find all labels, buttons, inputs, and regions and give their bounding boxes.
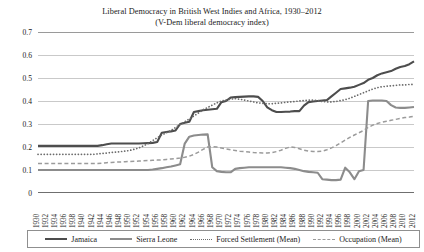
x-tick-label: 1952 — [133, 214, 141, 228]
x-tick-label: 1950 — [124, 214, 132, 228]
y-axis-labels: 00.10.20.30.40.50.60.7 — [0, 32, 34, 193]
x-axis-labels: 1930193219341936193819401942194419461948… — [38, 194, 414, 228]
x-tick-label: 1998 — [344, 214, 352, 228]
legend-swatch-forced-settlement-icon — [190, 239, 212, 240]
x-tick-label: 2000 — [354, 214, 362, 228]
x-tick-label: 1958 — [161, 214, 169, 228]
legend-item-jamaica: Jamaica — [45, 235, 97, 244]
legend-swatch-jamaica-icon — [45, 238, 67, 240]
x-tick-label: 1940 — [78, 214, 86, 228]
chart-subtitle: (V-Dem liberal democracy index) — [0, 17, 424, 28]
x-tick-label: 1930 — [33, 214, 41, 228]
chart-legend: Jamaica Sierra Leone Forced Settlement (… — [27, 230, 420, 248]
x-tick-label: 1986 — [289, 214, 297, 228]
x-tick-label: 1974 — [234, 214, 242, 228]
series-line-jamaica — [38, 61, 414, 145]
x-tick-label: 1938 — [69, 214, 77, 228]
x-tick-label: 1942 — [88, 214, 96, 228]
x-axis-line — [38, 192, 414, 193]
x-tick-label: 1944 — [97, 214, 105, 228]
x-tick-label: 1932 — [42, 214, 50, 228]
x-tick-label: 2008 — [390, 214, 398, 228]
series-line-occupation-mean — [38, 116, 414, 163]
x-tick-label: 2002 — [363, 214, 371, 228]
x-tick-label: 1978 — [253, 214, 261, 228]
series-line-forced-settlement-mean — [38, 84, 414, 154]
x-tick-label: 1964 — [189, 214, 197, 228]
y-tick-label: 0.7 — [6, 28, 32, 37]
x-tick-label: 1980 — [262, 214, 270, 228]
y-tick-label: 0.4 — [6, 97, 32, 106]
chart-figure: Liberal Democracy in British West Indies… — [0, 0, 424, 252]
x-tick-label: 1996 — [335, 214, 343, 228]
x-tick-label: 1982 — [271, 214, 279, 228]
y-tick-label: 0 — [6, 189, 32, 198]
x-tick-label: 1972 — [225, 214, 233, 228]
x-tick-label: 1976 — [244, 214, 252, 228]
x-tick-label: 1960 — [170, 214, 178, 228]
y-tick-label: 0.2 — [6, 143, 32, 152]
x-tick-label: 1994 — [326, 214, 334, 228]
x-tick-label: 1966 — [198, 214, 206, 228]
x-tick-label: 2004 — [372, 214, 380, 228]
legend-item-sierra-leone: Sierra Leone — [110, 235, 177, 244]
y-tick-label: 0.1 — [6, 166, 32, 175]
x-tick-label: 1988 — [299, 214, 307, 228]
x-tick-label: 1962 — [179, 214, 187, 228]
y-tick-label: 0.3 — [6, 120, 32, 129]
x-tick-label: 1956 — [152, 214, 160, 228]
legend-item-forced-settlement: Forced Settlement (Mean) — [190, 235, 300, 244]
x-tick-label: 1936 — [60, 214, 68, 228]
legend-swatch-occupation-icon — [313, 239, 335, 240]
y-tick-label: 0.6 — [6, 51, 32, 60]
x-tick-label: 1990 — [308, 214, 316, 228]
plot-area — [38, 32, 414, 193]
chart-lines — [38, 32, 414, 193]
x-tick-label: 1946 — [106, 214, 114, 228]
x-tick-label: 1968 — [207, 214, 215, 228]
x-tick-label: 1948 — [115, 214, 123, 228]
legend-label-occupation: Occupation (Mean) — [339, 235, 401, 244]
x-tick-label: 2012 — [409, 214, 417, 228]
legend-swatch-sierra-leone-icon — [110, 238, 132, 240]
page-title: Liberal Democracy in British West Indies… — [0, 6, 424, 17]
x-tick-label: 1984 — [280, 214, 288, 228]
x-tick-label: 1970 — [216, 214, 224, 228]
x-tick-label: 2010 — [399, 214, 407, 228]
x-tick-label: 2006 — [381, 214, 389, 228]
legend-label-sierra-leone: Sierra Leone — [136, 235, 177, 244]
legend-label-forced-settlement: Forced Settlement (Mean) — [216, 235, 300, 244]
legend-label-jamaica: Jamaica — [71, 235, 97, 244]
x-tick-label: 1934 — [51, 214, 59, 228]
x-tick-label: 1954 — [143, 214, 151, 228]
y-tick-label: 0.5 — [6, 74, 32, 83]
legend-item-occupation: Occupation (Mean) — [313, 235, 401, 244]
x-tick-label: 1992 — [317, 214, 325, 228]
series-line-sierra-leone — [38, 101, 414, 181]
chart-title-block: Liberal Democracy in British West Indies… — [0, 6, 424, 28]
